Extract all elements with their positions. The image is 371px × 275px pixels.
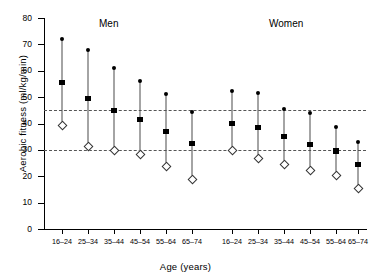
min-marker xyxy=(228,145,238,155)
y-tick-50 xyxy=(38,97,44,98)
mean-marker xyxy=(281,134,287,140)
y-tick-label-50: 50 xyxy=(2,93,32,102)
max-marker xyxy=(112,66,116,70)
min-marker xyxy=(306,165,316,175)
mean-marker xyxy=(137,117,143,123)
min-marker xyxy=(332,170,342,180)
group-caption-men: Men xyxy=(99,18,118,29)
mean-marker xyxy=(111,108,117,114)
y-tick-10 xyxy=(38,203,44,204)
x-axis-line xyxy=(44,229,367,230)
mean-marker xyxy=(333,148,339,154)
max-marker xyxy=(356,140,360,144)
mean-marker xyxy=(355,162,361,168)
y-tick-label-80: 80 xyxy=(2,14,32,23)
min-marker xyxy=(188,174,198,184)
y-tick-label-20: 20 xyxy=(2,172,32,181)
max-marker xyxy=(86,48,90,52)
max-marker xyxy=(282,107,286,111)
x-tick-0 xyxy=(62,229,63,234)
max-marker xyxy=(334,125,338,129)
y-tick-label-60: 60 xyxy=(2,66,32,75)
x-tick-8 xyxy=(284,229,285,234)
min-marker xyxy=(254,153,264,163)
reference-line-0 xyxy=(44,110,366,111)
x-tick-5 xyxy=(192,229,193,234)
x-tick-label-5: 65–74 xyxy=(170,238,214,246)
x-tick-3 xyxy=(140,229,141,234)
y-tick-label-10: 10 xyxy=(2,198,32,207)
min-marker xyxy=(354,184,364,194)
x-tick-2 xyxy=(114,229,115,234)
y-tick-label-0: 0 xyxy=(2,225,32,234)
mean-marker xyxy=(189,141,195,147)
y-tick-label-40: 40 xyxy=(2,119,32,128)
reference-line-1 xyxy=(44,150,366,151)
y-tick-label-70: 70 xyxy=(2,40,32,49)
group-caption-women: Women xyxy=(269,18,303,29)
y-tick-60 xyxy=(38,71,44,72)
max-marker xyxy=(60,37,64,41)
x-tick-7 xyxy=(258,229,259,234)
y-tick-80 xyxy=(38,18,44,19)
max-marker xyxy=(308,111,312,115)
max-marker xyxy=(190,110,194,114)
x-axis-title: Age (years) xyxy=(0,261,371,272)
y-axis-title: Aerobic fitness (ml/kg/min) xyxy=(17,34,28,194)
max-marker xyxy=(230,89,234,93)
aerobic-fitness-chart: Aerobic fitness (ml/kg/min) Age (years) … xyxy=(0,0,371,275)
mean-marker xyxy=(229,121,235,127)
x-tick-10 xyxy=(336,229,337,234)
y-tick-20 xyxy=(38,176,44,177)
y-tick-0 xyxy=(38,229,44,230)
max-marker xyxy=(256,91,260,95)
x-tick-6 xyxy=(232,229,233,234)
x-tick-11 xyxy=(358,229,359,234)
min-marker xyxy=(110,145,120,155)
min-marker xyxy=(280,160,290,170)
x-tick-4 xyxy=(166,229,167,234)
y-tick-70 xyxy=(38,44,44,45)
y-tick-40 xyxy=(38,124,44,125)
mean-marker xyxy=(59,80,65,86)
y-tick-label-30: 30 xyxy=(2,145,32,154)
min-marker xyxy=(162,161,172,171)
x-tick-label-11: 65–74 xyxy=(336,238,371,246)
mean-marker xyxy=(255,125,261,131)
mean-marker xyxy=(85,96,91,102)
x-tick-1 xyxy=(88,229,89,234)
x-tick-9 xyxy=(310,229,311,234)
mean-marker xyxy=(163,129,169,135)
max-marker xyxy=(138,79,142,83)
mean-marker xyxy=(307,142,313,148)
min-marker xyxy=(58,120,68,130)
max-marker xyxy=(164,92,168,96)
